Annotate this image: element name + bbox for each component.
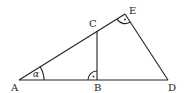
point-label-C: C — [89, 18, 97, 29]
right-angle-arc-E — [117, 19, 130, 24]
point-label-A: A — [10, 82, 19, 93]
angle-alpha-arc — [40, 67, 44, 80]
point-label-B: B — [94, 82, 101, 93]
diagram-canvas: α A B C D E — [0, 0, 186, 93]
segment-ED — [125, 14, 168, 80]
right-angle-arc-B — [88, 71, 97, 80]
geometry-diagram: α A B C D E — [0, 0, 186, 93]
angle-alpha-label: α — [33, 69, 39, 79]
point-label-D: D — [168, 82, 176, 93]
right-angle-dot-E — [124, 19, 126, 21]
right-angle-dot-B — [93, 76, 95, 78]
point-label-E: E — [129, 5, 136, 16]
